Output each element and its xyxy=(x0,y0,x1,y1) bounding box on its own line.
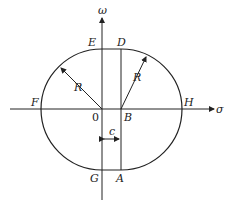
label-g: G xyxy=(90,172,99,185)
label-a: A xyxy=(115,172,124,185)
label-h: H xyxy=(183,96,194,109)
label-d: D xyxy=(116,36,126,49)
label-o: 0 xyxy=(92,111,99,124)
label-e: E xyxy=(87,36,96,49)
label-r-left: R xyxy=(73,81,82,94)
omega-label: ω xyxy=(98,4,107,17)
label-f: F xyxy=(30,96,39,109)
label-r-right: R xyxy=(132,71,141,84)
label-b: B xyxy=(123,111,132,124)
label-c: c xyxy=(109,125,115,138)
yield-surface-diagram: ω σ E D F H 0 B G A R R c xyxy=(0,0,227,211)
sigma-label: σ xyxy=(216,103,224,116)
